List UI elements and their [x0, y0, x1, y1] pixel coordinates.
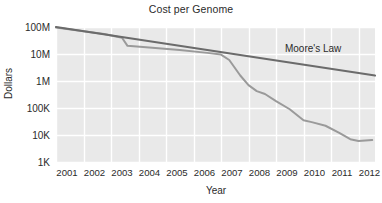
y-tick-label: 1M: [36, 76, 50, 87]
x-tick-label: 2008: [249, 167, 270, 178]
x-tick-label: 2002: [84, 167, 105, 178]
y-tick-label: 10M: [31, 49, 50, 60]
x-tick-label: 2009: [276, 167, 297, 178]
y-tick-label: 100M: [25, 22, 50, 33]
x-tick-label: 2003: [111, 167, 132, 178]
x-axis-tick-labels: 2001200220032004200520062007200820092010…: [56, 167, 380, 178]
chart-annotations: Moore's Law: [285, 43, 342, 54]
x-tick-label: 2004: [139, 167, 161, 178]
chart-plot-svg: 100M10M1M100K10K1K 200120022003200420052…: [0, 0, 382, 203]
chart-container: Cost per Genome Dollars Year 100M10M1M10…: [0, 0, 382, 203]
x-tick-label: 2012: [359, 167, 380, 178]
y-axis-tick-labels: 100M10M1M100K10K1K: [25, 22, 50, 168]
x-tick-label: 2010: [304, 167, 325, 178]
x-tick-label: 2001: [56, 167, 77, 178]
annotation-moores-law: Moore's Law: [285, 43, 342, 54]
x-tick-label: 2011: [332, 167, 353, 178]
y-tick-label: 100K: [27, 103, 51, 114]
x-tick-label: 2007: [221, 167, 242, 178]
x-tick-label: 2005: [166, 167, 187, 178]
y-tick-label: 10K: [32, 130, 50, 141]
y-tick-label: 1K: [38, 157, 51, 168]
x-tick-label: 2006: [194, 167, 215, 178]
